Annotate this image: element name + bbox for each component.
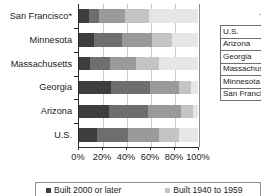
table-title: T bbox=[220, 12, 261, 21]
table-cell-name: Massachusetts bbox=[221, 63, 262, 76]
table-cell-name: San Francisco* bbox=[221, 88, 262, 101]
bar-series-container bbox=[79, 4, 198, 147]
bar-segment bbox=[172, 33, 198, 47]
bar-segment bbox=[181, 105, 193, 119]
bar-row bbox=[79, 81, 198, 95]
x-axis-tick bbox=[150, 147, 151, 150]
y-axis-tick bbox=[74, 28, 78, 29]
table-row: Georgia bbox=[221, 51, 262, 64]
bar-row bbox=[79, 9, 198, 23]
gridline bbox=[199, 4, 200, 147]
bar-segment bbox=[94, 33, 121, 47]
bar-segment bbox=[79, 33, 94, 47]
bar-segment bbox=[79, 128, 97, 142]
x-axis-tick bbox=[174, 147, 175, 150]
x-axis-line bbox=[78, 147, 198, 148]
bar-segment bbox=[97, 128, 128, 142]
bar-segment bbox=[99, 9, 125, 23]
x-axis-label: 80% bbox=[165, 152, 183, 162]
bar-segment bbox=[89, 9, 100, 23]
y-axis-tick bbox=[74, 99, 78, 100]
table-cell-name: Arizona bbox=[221, 38, 262, 51]
x-axis-label: 40% bbox=[117, 152, 135, 162]
bar-segment bbox=[79, 9, 89, 23]
chart-legend: Built 2000 or laterBuilt 1940 to 1959 bbox=[35, 182, 261, 196]
bar-segment bbox=[148, 105, 181, 119]
bar-segment bbox=[152, 33, 172, 47]
table-cell-name: Minnesota bbox=[221, 76, 262, 89]
stacked-bar-chart: San Francisco*MinnesotaMassachusettsGeor… bbox=[0, 0, 200, 178]
chart-screenshot: San Francisco*MinnesotaMassachusettsGeor… bbox=[0, 0, 261, 196]
bar-segment bbox=[179, 81, 191, 95]
bar-row bbox=[79, 57, 198, 71]
bar-segment bbox=[191, 81, 198, 95]
bar-segment bbox=[159, 128, 179, 142]
bar-row bbox=[79, 128, 198, 142]
bar-segment bbox=[122, 33, 152, 47]
table-cell-name: Georgia bbox=[221, 51, 262, 64]
category-label: Arizona bbox=[41, 106, 72, 116]
x-axis-label: 100% bbox=[186, 152, 210, 162]
legend-item[interactable]: Built 1940 to 1959 bbox=[165, 186, 242, 195]
category-label: Minnesota bbox=[30, 35, 72, 45]
bar-segment bbox=[128, 128, 159, 142]
category-label: San Francisco* bbox=[10, 11, 72, 21]
bar-segment bbox=[159, 57, 198, 71]
table-row: U.S. bbox=[221, 26, 262, 39]
plot-area bbox=[78, 4, 198, 147]
legend-label: Built 2000 or later bbox=[54, 186, 121, 195]
bar-row bbox=[79, 105, 198, 119]
table-row: Massachusetts bbox=[221, 63, 262, 76]
bar-segment bbox=[193, 105, 198, 119]
y-axis-tick bbox=[74, 76, 78, 77]
data-table: U.S.ArizonaGeorgiaMassachusettsMinnesota… bbox=[220, 25, 261, 101]
category-label: Georgia bbox=[39, 82, 72, 92]
bar-segment bbox=[125, 9, 149, 23]
legend-item[interactable]: Built 2000 or later bbox=[46, 186, 121, 195]
x-axis-tick bbox=[78, 147, 79, 150]
category-axis: San Francisco*MinnesotaMassachusettsGeor… bbox=[0, 0, 78, 150]
x-axis-tick bbox=[102, 147, 103, 150]
table-row: Arizona bbox=[221, 38, 262, 51]
bar-segment bbox=[79, 105, 109, 119]
table-row: Minnesota bbox=[221, 76, 262, 89]
bar-segment bbox=[136, 57, 159, 71]
table-cell-name: U.S. bbox=[221, 26, 262, 39]
legend-label: Built 1940 to 1959 bbox=[173, 186, 242, 195]
bar-segment bbox=[150, 81, 179, 95]
bar-segment bbox=[149, 9, 198, 23]
x-axis-tick bbox=[126, 147, 127, 150]
bar-segment bbox=[109, 105, 148, 119]
category-label: U.S. bbox=[54, 130, 72, 140]
x-axis-label: 60% bbox=[141, 152, 159, 162]
bar-segment bbox=[110, 57, 136, 71]
x-axis-tick bbox=[198, 147, 199, 150]
y-axis-tick bbox=[74, 52, 78, 53]
x-axis-label: 0% bbox=[71, 152, 84, 162]
category-label: Massachusetts bbox=[11, 59, 72, 69]
bar-segment bbox=[179, 128, 198, 142]
bar-segment bbox=[79, 81, 111, 95]
bar-row bbox=[79, 33, 198, 47]
bar-segment bbox=[90, 57, 110, 71]
legend-swatch bbox=[165, 188, 170, 193]
bar-segment bbox=[111, 81, 150, 95]
x-axis-label: 20% bbox=[93, 152, 111, 162]
legend-swatch bbox=[46, 188, 51, 193]
table-row: San Francisco* bbox=[221, 88, 262, 101]
bar-segment bbox=[79, 57, 90, 71]
y-axis-tick bbox=[74, 123, 78, 124]
table-panel: T U.S.ArizonaGeorgiaMassachusettsMinneso… bbox=[206, 6, 261, 126]
